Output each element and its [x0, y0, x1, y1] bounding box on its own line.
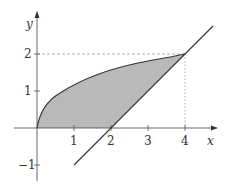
y-tick-label: 1	[24, 84, 32, 98]
y-axis-label: y	[25, 17, 33, 31]
x-tick-label: 3	[144, 134, 152, 148]
shaded-region	[37, 54, 185, 128]
x-axis-arrow-icon	[211, 126, 218, 131]
y-tick-label: 2	[24, 47, 32, 61]
region-diagram: 1 2 3 4 2 1 −1 x y	[0, 0, 233, 190]
y-tick-label: −1	[18, 158, 36, 172]
y-axis-arrow-icon	[35, 11, 40, 18]
x-tick-label: 4	[181, 134, 189, 148]
x-tick-label: 2	[107, 134, 115, 148]
x-tick-label: 1	[70, 134, 78, 148]
x-axis-label: x	[207, 134, 214, 148]
